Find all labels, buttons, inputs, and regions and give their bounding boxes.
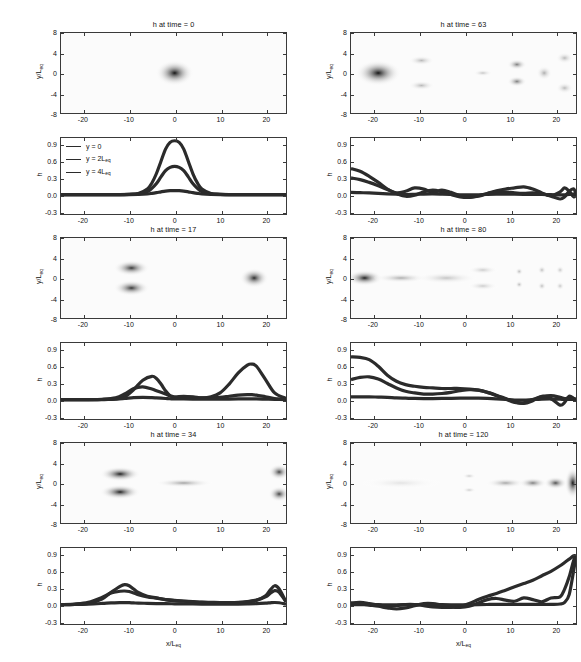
- line-xtick-label: -10: [124, 422, 134, 429]
- line-ytick: [283, 418, 286, 419]
- line-xtick: [84, 416, 85, 419]
- map-xtick-label: -10: [124, 321, 134, 328]
- map-xtick: [267, 33, 268, 36]
- map-xtick: [267, 110, 268, 113]
- map-xtick: [374, 520, 375, 523]
- map-ytick: [283, 95, 286, 96]
- line-xtick: [176, 548, 177, 551]
- line-xtick: [130, 343, 131, 346]
- line-ytick: [351, 162, 354, 163]
- map-ytick: [283, 54, 286, 55]
- map-xtick: [84, 315, 85, 318]
- map-xtick: [512, 33, 513, 36]
- line-xtick-label: 10: [507, 422, 515, 429]
- map-xtick: [130, 315, 131, 318]
- line-xtick: [267, 548, 268, 551]
- legend-entry-2: y = 4Leq: [66, 167, 111, 177]
- line-xtick-label: -20: [368, 627, 378, 634]
- map-ytick: [283, 259, 286, 260]
- line-xtick-label: -10: [414, 422, 424, 429]
- map-xtick: [222, 110, 223, 113]
- line-ytick: [351, 350, 354, 351]
- lineplot-axes-t17: [60, 342, 287, 420]
- map-xtick: [512, 443, 513, 446]
- line-ytick-label: 0.6: [47, 567, 60, 574]
- line-xtick: [222, 343, 223, 346]
- panel-title-t120: h at time = 120: [350, 430, 577, 439]
- map-ytick: [573, 443, 576, 444]
- line-xtick: [374, 416, 375, 419]
- map-xtick-label: 0: [173, 526, 177, 533]
- line-ytick: [573, 418, 576, 419]
- line-ytick-label: 0.3: [337, 174, 350, 181]
- map-xtick: [557, 110, 558, 113]
- line-xtick-label: 10: [507, 217, 515, 224]
- map-ytick: [61, 279, 64, 280]
- map-yaxis-title: y/Leq: [324, 64, 333, 79]
- map-xtick: [466, 238, 467, 241]
- line-ytick: [61, 623, 64, 624]
- legend-line-swatch-1: [66, 159, 81, 160]
- map-ytick: [351, 443, 354, 444]
- line-xtick: [420, 621, 421, 624]
- contour-axes-t34: [60, 442, 287, 524]
- map-ytick-label: 0: [343, 70, 350, 77]
- line-yaxis-title: h: [325, 365, 334, 395]
- map-ytick-label: -4: [341, 500, 350, 507]
- line-ytick: [573, 196, 576, 197]
- line-ytick: [61, 401, 64, 402]
- line-ytick: [573, 145, 576, 146]
- map-ytick-label: -8: [341, 521, 350, 528]
- line-xtick-label: -20: [368, 217, 378, 224]
- map-xtick-label: -20: [368, 116, 378, 123]
- line-xtick: [176, 211, 177, 214]
- line-ytick-label: 0.9: [47, 345, 60, 352]
- map-xtick-label: 20: [552, 116, 560, 123]
- line-xtick-label: -10: [124, 217, 134, 224]
- line-yaxis-title: h: [35, 570, 44, 600]
- line-ytick-label: 0.3: [47, 379, 60, 386]
- map-ytick-label: 8: [343, 29, 350, 36]
- contour-panel-t80: h at time = 80-20-1001020-8-4048y/Leq: [350, 237, 577, 319]
- map-xtick: [267, 443, 268, 446]
- contour-field: [351, 443, 576, 523]
- map-xtick: [466, 315, 467, 318]
- map-ytick-label: 8: [53, 29, 60, 36]
- line-xtick: [420, 138, 421, 141]
- map-xtick-label: 0: [173, 321, 177, 328]
- map-xtick: [374, 443, 375, 446]
- line-ytick-label: 0.9: [337, 140, 350, 147]
- line-ytick: [283, 367, 286, 368]
- map-ytick-label: -4: [51, 295, 60, 302]
- contour-field: [61, 33, 286, 113]
- contour-field: [351, 33, 576, 113]
- map-xtick-label: 20: [262, 526, 270, 533]
- line-series-group: [61, 548, 286, 624]
- line-ytick: [351, 145, 354, 146]
- line-ytick: [351, 213, 354, 214]
- line-xtick-label: 20: [552, 217, 560, 224]
- map-xtick: [222, 238, 223, 241]
- map-ytick-label: 0: [53, 70, 60, 77]
- contour-panel-t17: h at time = 17-20-1001020-8-4048y/Leq: [60, 237, 287, 319]
- line-xtick: [466, 416, 467, 419]
- line-xtick: [267, 343, 268, 346]
- line-ytick: [283, 589, 286, 590]
- map-ytick: [283, 300, 286, 301]
- line-xtick: [557, 211, 558, 214]
- line-xtick-label: -10: [414, 627, 424, 634]
- contour-axes-t17: [60, 237, 287, 319]
- map-ytick-label: 0: [53, 480, 60, 487]
- line-xtick: [222, 621, 223, 624]
- line-ytick: [283, 572, 286, 573]
- line-ytick: [351, 606, 354, 607]
- line-ytick: [61, 162, 64, 163]
- line-xtick-label: 0: [463, 422, 467, 429]
- contour-field: [61, 238, 286, 318]
- line-xaxis-title: x/Leq: [166, 639, 181, 648]
- line-xtick: [130, 621, 131, 624]
- legend-label-0: y = 0: [86, 143, 101, 150]
- line-series-group: [351, 548, 576, 624]
- legend-line-swatch-2: [66, 172, 81, 173]
- map-xtick: [267, 520, 268, 523]
